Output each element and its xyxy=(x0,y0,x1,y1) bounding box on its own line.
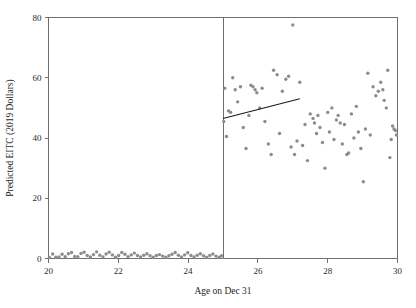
scatter-point xyxy=(95,250,98,253)
scatter-point xyxy=(223,87,226,90)
scatter-point xyxy=(111,253,114,256)
scatter-point xyxy=(278,132,281,135)
scatter-point xyxy=(359,147,362,150)
scatter-point xyxy=(267,142,270,145)
scatter-point xyxy=(231,76,234,79)
scatter-point xyxy=(220,254,223,257)
scatter-point xyxy=(332,138,335,141)
scatter-plot-svg: 020406080 202224262830 Age on Dec 31 Pre… xyxy=(0,0,416,308)
scatter-point xyxy=(383,99,386,102)
scatter-point xyxy=(323,166,326,169)
scatter-point xyxy=(377,90,380,93)
scatter-point xyxy=(321,141,324,144)
x-tick-label: 30 xyxy=(393,266,403,276)
scatter-point xyxy=(101,255,104,258)
scatter-point xyxy=(328,130,331,133)
scatter-point xyxy=(152,256,155,259)
scatter-point xyxy=(73,255,76,258)
scatter-point xyxy=(130,253,133,256)
chart-figure: 020406080 202224262830 Age on Dec 31 Pre… xyxy=(0,0,416,308)
scatter-point xyxy=(136,254,139,257)
scatter-point xyxy=(195,253,198,256)
scatter-point xyxy=(225,135,228,138)
scatter-point xyxy=(275,73,278,76)
scatter-point xyxy=(289,145,292,148)
scatter-point xyxy=(236,100,239,103)
scatter-point xyxy=(192,255,195,258)
scatter-point xyxy=(148,254,151,257)
scatter-point xyxy=(139,255,142,258)
scatter-point xyxy=(60,253,63,256)
x-tick-label: 28 xyxy=(323,266,333,276)
scatter-point xyxy=(126,255,129,258)
scatter-point xyxy=(214,254,217,257)
scatter-point xyxy=(311,117,314,120)
scatter-point xyxy=(202,254,205,257)
scatter-point xyxy=(391,124,394,127)
scatter-point xyxy=(379,81,382,84)
scatter-point xyxy=(82,250,85,253)
scatter-point xyxy=(381,88,384,91)
scatter-point xyxy=(366,72,369,75)
scatter-point xyxy=(164,256,167,259)
scatter-point xyxy=(86,254,89,257)
scatter-point xyxy=(386,69,389,72)
scatter-point xyxy=(298,81,301,84)
scatter-point xyxy=(183,253,186,256)
scatter-point xyxy=(92,253,95,256)
scatter-point xyxy=(390,138,393,141)
scatter-point xyxy=(123,253,126,256)
scatter-point xyxy=(362,180,365,183)
scatter-point xyxy=(371,85,374,88)
scatter-point xyxy=(104,252,107,255)
scatter-point xyxy=(291,23,294,26)
y-tick-label: 20 xyxy=(33,193,43,203)
scatter-point xyxy=(253,88,256,91)
scatter-point xyxy=(158,253,161,256)
x-tick-label: 20 xyxy=(44,266,54,276)
scatter-point xyxy=(108,250,111,253)
x-tick-label: 24 xyxy=(184,266,194,276)
scatter-point xyxy=(180,255,183,258)
scatter-point xyxy=(48,256,51,259)
scatter-point xyxy=(189,254,192,257)
x-axis-ticks: 202224262830 xyxy=(44,259,403,276)
scatter-point xyxy=(89,255,92,258)
scatter-point xyxy=(229,111,232,114)
scatter-point xyxy=(64,255,67,258)
scatter-point xyxy=(306,159,309,162)
scatter-point xyxy=(247,114,250,117)
scatter-point xyxy=(170,253,173,256)
scatter-point xyxy=(357,130,360,133)
scatter-point xyxy=(57,255,60,258)
scatter-point xyxy=(316,114,319,117)
scatter-point xyxy=(161,254,164,257)
scatter-point xyxy=(145,252,148,255)
scatter-point xyxy=(295,139,298,142)
scatter-point xyxy=(318,126,321,129)
y-tick-label: 80 xyxy=(33,13,43,23)
scatter-point xyxy=(341,142,344,145)
scatter-point xyxy=(369,133,372,136)
y-tick-label: 60 xyxy=(33,73,43,83)
scatter-point xyxy=(244,147,247,150)
scatter-point xyxy=(239,85,242,88)
scatter-point xyxy=(133,251,136,254)
x-axis-title: Age on Dec 31 xyxy=(194,286,251,296)
scatter-point xyxy=(242,126,245,129)
scatter-point xyxy=(284,78,287,81)
scatter-point xyxy=(339,121,342,124)
scatter-point xyxy=(388,156,391,159)
scatter-point xyxy=(343,123,346,126)
scatter-point xyxy=(199,252,202,255)
scatter-point xyxy=(364,127,367,130)
scatter-point xyxy=(79,252,82,255)
scatter-point xyxy=(114,256,117,259)
scatter-point xyxy=(177,253,180,256)
scatter-point xyxy=(67,252,70,255)
scatter-point xyxy=(98,253,101,256)
scatter-point xyxy=(374,94,377,97)
scatter-point xyxy=(347,151,350,154)
scatter-point xyxy=(76,255,79,258)
scatter-point xyxy=(260,87,263,90)
